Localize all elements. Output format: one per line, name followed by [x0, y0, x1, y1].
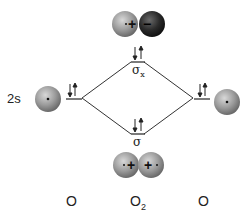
molecule-subscript: 2: [141, 202, 146, 212]
molecule-symbol: O: [130, 193, 141, 209]
antibonding-label: σx: [132, 63, 145, 79]
mo-diagram-graphic: + − + +: [0, 0, 252, 216]
svg-text:−: −: [143, 16, 151, 32]
orbital-label-2s: 2s: [7, 91, 21, 106]
svg-text:+: +: [128, 16, 136, 32]
label-right-atom: O: [198, 193, 209, 209]
left-atom-sphere: [35, 86, 61, 112]
antibonding-sigma: σ: [132, 63, 140, 77]
right-atom-sphere: [214, 89, 240, 115]
svg-text:+: +: [144, 157, 152, 173]
label-left-atom: O: [66, 193, 77, 209]
electron-spin-arrows: [68, 46, 207, 132]
svg-text:+: +: [127, 157, 135, 173]
antibonding-orbital-spheres: + −: [112, 11, 165, 37]
bonding-label: σ: [133, 135, 141, 149]
antibonding-subscript: x: [140, 70, 145, 79]
label-molecule: O2: [130, 193, 146, 212]
bonding-orbital-spheres: + +: [113, 152, 164, 178]
